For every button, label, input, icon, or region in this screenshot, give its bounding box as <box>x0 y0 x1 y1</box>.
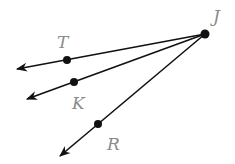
point-K <box>70 78 78 86</box>
ray-JT <box>17 34 205 69</box>
label-R: R <box>106 134 120 154</box>
point-R <box>94 120 102 128</box>
point-J <box>201 30 210 39</box>
label-T: T <box>57 32 70 52</box>
label-K: K <box>71 93 86 113</box>
rays-diagram: TKRJ <box>0 0 235 164</box>
point-T <box>63 56 71 64</box>
diagram-svg: TKRJ <box>0 0 235 164</box>
label-J: J <box>210 6 221 26</box>
ray-JK <box>27 34 205 99</box>
